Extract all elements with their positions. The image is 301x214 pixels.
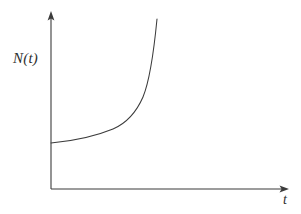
x-axis-label: t bbox=[283, 193, 287, 207]
plot-canvas bbox=[0, 0, 301, 214]
exponential-growth-curve bbox=[51, 19, 157, 143]
y-axis-label: N(t) bbox=[13, 51, 38, 66]
figure-container: N(t) t bbox=[0, 0, 301, 214]
